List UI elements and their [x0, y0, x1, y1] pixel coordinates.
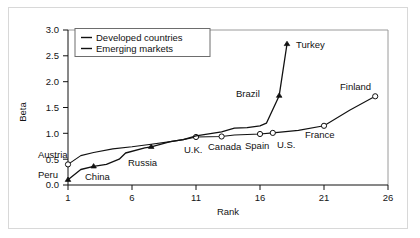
data-point-austria [65, 162, 70, 167]
x-tick-label-4: 21 [319, 192, 330, 203]
data-point-turkey [284, 41, 290, 45]
y-axis-ticks: 0.0 0.5 1.0 1.5 2.0 2.5 3.0 [46, 24, 68, 190]
label-finland: Finland [340, 81, 371, 92]
x-axis-ticks: 1 6 11 16 21 26 [65, 185, 393, 203]
chart-figure: 0.0 0.5 1.0 1.5 2.0 2.5 3.0 1 6 11 16 [0, 0, 420, 238]
y-tick-label-2: 1.0 [46, 128, 59, 139]
data-point-canada [219, 134, 224, 139]
legend-label-emerging-markets: Emerging markets [96, 43, 173, 54]
data-point-france [321, 123, 326, 128]
chart-legend: Developed countries Emerging markets [75, 29, 210, 57]
x-tick-label-2: 11 [191, 192, 201, 203]
label-austria: Austria [38, 149, 68, 160]
series-emerging-markets-line [68, 44, 287, 180]
label-peru: Peru [38, 169, 58, 180]
data-point-brazil [276, 93, 282, 97]
data-point-spain [257, 131, 262, 136]
label-china: China [85, 171, 111, 182]
y-tick-label-0: 0.0 [46, 179, 59, 190]
label-spain: Spain [245, 140, 269, 151]
y-axis-title: Beta [17, 102, 28, 122]
label-brazil: Brazil [236, 88, 260, 99]
label-canada: Canada [208, 141, 242, 152]
label-france: France [305, 129, 335, 140]
data-point-labels: Peru China Russia Brazil Turkey Austria … [38, 39, 371, 182]
x-tick-label-5: 26 [383, 192, 394, 203]
data-point-finland [373, 94, 378, 99]
legend-label-developed-countries: Developed countries [96, 32, 183, 43]
label-turkey: Turkey [296, 39, 325, 50]
y-tick-label-6: 3.0 [46, 24, 59, 35]
series-emerging-markets [65, 41, 290, 181]
x-tick-label-3: 16 [255, 192, 266, 203]
x-tick-label-0: 1 [65, 192, 70, 203]
x-axis-title: Rank [217, 206, 239, 217]
y-tick-label-4: 2.0 [46, 76, 59, 87]
label-us: U.S. [277, 139, 295, 150]
y-tick-label-3: 1.5 [46, 102, 59, 113]
data-point-us [270, 130, 275, 135]
label-russia: Russia [128, 157, 158, 168]
y-tick-label-5: 2.5 [46, 50, 59, 61]
label-uk: U.K. [184, 144, 202, 155]
x-tick-label-1: 6 [129, 192, 134, 203]
beta-vs-rank-line-chart: 0.0 0.5 1.0 1.5 2.0 2.5 3.0 1 6 11 16 [0, 0, 420, 238]
